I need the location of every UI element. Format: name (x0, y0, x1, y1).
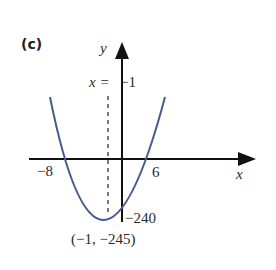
y-axis-label: y (100, 41, 107, 56)
y-intercept-label: −240 (125, 211, 156, 226)
x-axis-label: x (236, 167, 243, 182)
axis-of-symmetry-value: −1 (120, 75, 136, 90)
x-intercept-left-label: −8 (37, 164, 53, 179)
x-intercept-right-label: 6 (152, 165, 160, 180)
axis-of-symmetry-label: x = (89, 75, 110, 90)
parabola-figure: (c) y x x = −1 −8 6 −240 (−1, −245) (0, 0, 276, 270)
x-axis-arrow-icon (238, 152, 256, 166)
vertex-label: (−1, −245) (71, 232, 135, 247)
y-axis-arrow-icon (115, 42, 129, 59)
graph-canvas (0, 0, 276, 270)
axis-of-symmetry-prefix: x = (89, 74, 110, 90)
